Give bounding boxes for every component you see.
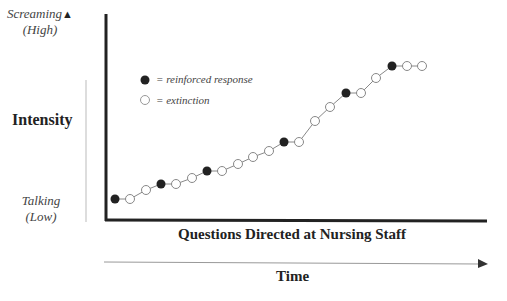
- extinction-point-icon: [249, 153, 258, 162]
- up-arrow-icon: ▲: [62, 8, 73, 20]
- extinction-point-icon: [372, 74, 381, 83]
- legend-reinforced-label: = reinforced response: [156, 73, 253, 85]
- chart-canvas: [0, 0, 507, 301]
- series-line: [115, 66, 422, 199]
- extinction-point-icon: [234, 160, 243, 169]
- time-arrow-head-icon: [478, 259, 488, 268]
- extinction-point-icon: [265, 147, 274, 156]
- time-label: Time: [276, 268, 309, 285]
- x-axis: [105, 220, 487, 221]
- extinction-point-icon: [126, 195, 135, 204]
- extinction-point-icon: [188, 174, 197, 183]
- reinforced-point-icon: [157, 180, 166, 189]
- screaming-label: Screaming: [7, 6, 62, 21]
- reinforced-point-icon: [203, 167, 212, 176]
- talking-label: Talking: [22, 193, 61, 208]
- time-arrow-line: [104, 262, 480, 264]
- extinction-point-icon: [295, 138, 304, 147]
- y-bottom-label: Talking (Low): [2, 193, 80, 225]
- extinction-point-icon: [418, 62, 427, 71]
- low-label: (Low): [25, 209, 56, 224]
- reinforced-point-icon: [388, 62, 397, 71]
- legend-open-marker-icon: [141, 96, 150, 105]
- extinction-point-icon: [357, 89, 366, 98]
- extinction-point-icon: [311, 117, 320, 126]
- reinforced-point-icon: [342, 89, 351, 98]
- extinction-point-icon: [172, 180, 181, 189]
- extinction-point-icon: [326, 103, 335, 112]
- x-axis-title: Questions Directed at Nursing Staff: [178, 226, 406, 243]
- extinction-point-icon: [218, 167, 227, 176]
- reinforced-point-icon: [280, 138, 289, 147]
- high-label: (High): [23, 22, 58, 37]
- intensity-title: Intensity: [12, 111, 72, 129]
- reinforced-point-icon: [111, 195, 120, 204]
- legend-filled-marker-icon: [141, 76, 150, 85]
- legend-extinction-label: = extinction: [156, 94, 210, 106]
- extinction-point-icon: [403, 62, 412, 71]
- extinction-point-icon: [142, 186, 151, 195]
- y-top-label: Screaming▲ (High): [0, 6, 80, 37]
